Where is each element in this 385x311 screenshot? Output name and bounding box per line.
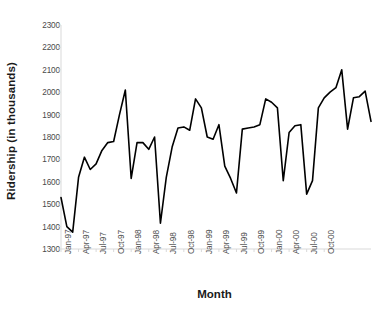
data-series-line	[61, 70, 371, 232]
x-axis-title: Month	[0, 288, 385, 300]
plot-area	[0, 0, 385, 311]
axis-lines	[61, 25, 371, 249]
ridership-line-chart: Ridership (in thousands) 230022002100200…	[0, 0, 385, 311]
